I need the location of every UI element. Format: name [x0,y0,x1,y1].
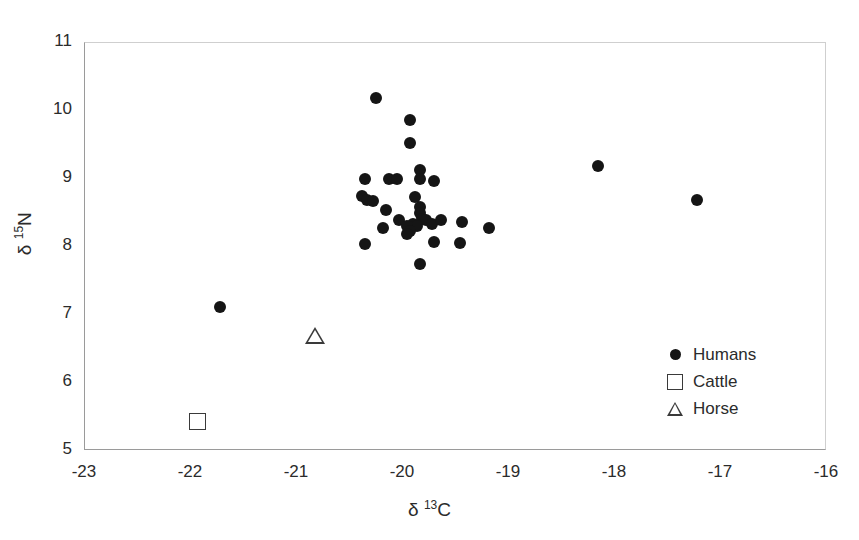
data-point-humans [414,258,426,270]
y-tick-label: 9 [32,167,72,187]
x-axis-superscript: 13 [424,498,437,512]
data-point-humans [428,236,440,248]
x-axis-element: C [437,499,451,520]
x-axis-delta: δ [408,499,419,520]
legend-item-humans[interactable]: Humans [663,341,793,368]
chart-title [0,0,859,7]
data-point-humans [380,204,392,216]
x-tick-label: -16 [796,462,856,482]
data-point-humans [359,238,371,250]
data-point-humans [483,222,495,234]
legend-item-label: Humans [693,345,756,365]
y-axis-title: δ 15N [12,124,35,344]
y-axis-delta: δ [14,245,35,256]
x-tick-label: -20 [372,462,432,482]
x-axis-title: δ 13C [0,498,859,521]
x-tick-label: -17 [690,462,750,482]
data-point-humans [377,222,389,234]
data-point-cattle [189,413,206,430]
x-tick-label: -19 [478,462,538,482]
open-square-icon [663,371,687,393]
data-point-horse [305,327,325,344]
y-tick-label: 10 [32,99,72,119]
data-point-humans [391,173,403,185]
y-tick-label: 8 [32,235,72,255]
x-tick-label: -22 [160,462,220,482]
data-point-humans [456,216,468,228]
scatter-plot-figure: 567891011 -23-22-21-20-19-18-17-16 δ 13C… [0,0,859,540]
legend-item-cattle[interactable]: Cattle [663,368,793,395]
legend-item-label: Horse [693,399,738,419]
y-tick-label: 7 [32,303,72,323]
filled-circle-icon [663,344,687,366]
y-tick-label: 6 [32,371,72,391]
data-point-humans [370,92,382,104]
y-axis-element: N [14,212,35,226]
legend: HumansCattleHorse [663,341,793,422]
y-axis-superscript: 15 [12,226,26,239]
legend-item-horse[interactable]: Horse [663,395,793,422]
open-triangle-icon [663,398,687,420]
legend-item-label: Cattle [693,372,737,392]
data-point-humans [401,228,413,240]
x-tick-label: -23 [54,462,114,482]
x-tick-label: -21 [266,462,326,482]
y-tick-label: 5 [32,439,72,459]
x-tick-label: -18 [584,462,644,482]
data-point-humans [691,194,703,206]
data-point-humans [214,301,226,313]
y-tick-label: 11 [32,31,72,51]
